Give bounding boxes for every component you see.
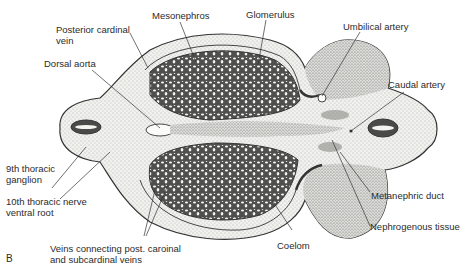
label-veins-connecting-2: and subcardinal veins <box>50 254 142 265</box>
panel-letter: B <box>6 253 13 264</box>
label-10th-thoracic-nerve-1: 10th thoracic nerve <box>6 196 87 207</box>
label-veins-connecting-1: Veins connecting post. caroinal <box>50 243 181 254</box>
neural-tube-left <box>71 120 101 134</box>
label-posterior-cardinal-vein-1: Posterior cardinal <box>56 24 130 35</box>
umbilical-lobe <box>305 40 390 100</box>
label-glomerulus: Glomerulus <box>246 9 295 20</box>
label-9th-thoracic-ganglion-2: ganglion <box>6 174 42 185</box>
label-mesonephros: Mesonephros <box>152 10 210 21</box>
label-nephrogenous-tissue: Nephrogenous tissue <box>370 221 460 232</box>
label-posterior-cardinal-vein-2: vein <box>56 35 73 46</box>
label-umbilical-artery: Umbilical artery <box>343 21 408 32</box>
label-dorsal-aorta: Dorsal aorta <box>44 58 96 69</box>
mesonephros-upper <box>150 51 300 120</box>
neural-tube-right <box>368 119 398 137</box>
dorsal-aorta-vessel <box>146 124 174 136</box>
label-9th-thoracic-ganglion-1: 9th thoracic <box>6 163 55 174</box>
label-coelom: Coelom <box>277 240 310 251</box>
label-metanephric-duct: Metanephric duct <box>371 190 444 201</box>
label-caudal-artery: Caudal artery <box>388 79 445 90</box>
label-10th-thoracic-nerve-2: ventral root <box>6 207 54 218</box>
